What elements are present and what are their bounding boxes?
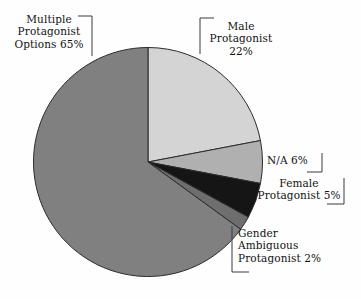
slice-label-male: Male Protagonist 22% bbox=[204, 20, 278, 57]
pie-chart: Multiple Protagonist Options 65% Male Pr… bbox=[0, 0, 361, 299]
slice-label-gender: Gender Ambiguous Protagonist 2% bbox=[238, 227, 338, 264]
slice-label-female: Female Protagonist 5% bbox=[255, 177, 343, 202]
slice-label-multiple: Multiple Protagonist Options 65% bbox=[10, 13, 88, 50]
slice-label-na: N/A 6% bbox=[267, 154, 321, 166]
pie-slice-group bbox=[33, 47, 262, 276]
